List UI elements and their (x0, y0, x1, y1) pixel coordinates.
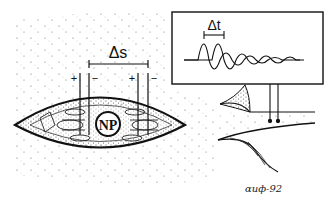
delta-s-label: Δs (109, 44, 128, 61)
delta-t-label: Δt (207, 17, 220, 33)
diagram-canvas: NP Δs + − + − Δt (0, 0, 333, 207)
nerve-trunk-side (218, 85, 315, 172)
minus-right: − (151, 72, 157, 84)
artist-signature: ɑиф-92 (245, 183, 282, 194)
plus-left: + (71, 72, 77, 84)
minus-left: − (92, 72, 98, 84)
plus-right: + (129, 72, 135, 84)
np-label: NP (99, 118, 118, 133)
oscilloscope-display: Δt (172, 12, 323, 84)
